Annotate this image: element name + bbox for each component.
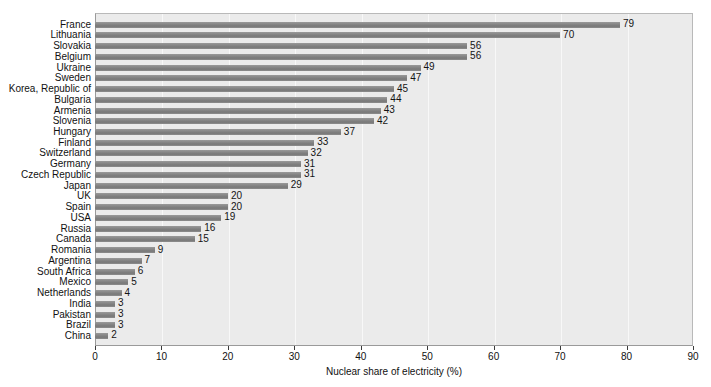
category-axis-labels: FranceLithuaniaSlovakiaBelgiumUkraineSwe… — [0, 13, 91, 346]
bar-row: 15 — [95, 234, 693, 245]
bar-value-label: 47 — [410, 72, 421, 83]
chart-screenshot: FranceLithuaniaSlovakiaBelgiumUkraineSwe… — [0, 0, 711, 387]
bar-value-label: 3 — [118, 297, 124, 308]
category-label: Hungary — [0, 126, 91, 137]
bar — [95, 290, 122, 296]
x-tick — [627, 346, 628, 350]
bar — [95, 150, 308, 156]
category-label: Sweden — [0, 72, 91, 83]
category-label: Lithuania — [0, 29, 91, 40]
bar-row: 19 — [95, 213, 693, 224]
bar-value-label: 29 — [291, 179, 302, 190]
bar-value-label: 31 — [304, 158, 315, 169]
bar-row: 43 — [95, 106, 693, 117]
x-tick-label: 20 — [222, 351, 233, 363]
category-label: Pakistan — [0, 309, 91, 320]
bar-value-label: 44 — [390, 93, 401, 104]
bar-value-label: 5 — [131, 276, 137, 287]
category-label: Belgium — [0, 51, 91, 62]
bar-row: 31 — [95, 170, 693, 181]
category-label: UK — [0, 190, 91, 201]
bar — [95, 86, 394, 92]
bar — [95, 204, 228, 210]
bar-row: 3 — [95, 310, 693, 321]
bar — [95, 193, 228, 199]
category-label: Japan — [0, 180, 91, 191]
category-label: Finland — [0, 137, 91, 148]
bar-value-label: 49 — [424, 61, 435, 72]
bar — [95, 247, 155, 253]
x-tick-label: 10 — [156, 351, 167, 363]
bar-value-label: 19 — [224, 211, 235, 222]
category-label: Slovenia — [0, 115, 91, 126]
bar-row: 56 — [95, 52, 693, 63]
bar-row: 4 — [95, 288, 693, 299]
bar — [95, 43, 467, 49]
category-label: Netherlands — [0, 287, 91, 298]
bar-value-label: 16 — [204, 222, 215, 233]
x-tick-label: 50 — [422, 351, 433, 363]
bar-value-label: 33 — [317, 136, 328, 147]
bar-value-label: 42 — [377, 115, 388, 126]
bar-row: 70 — [95, 30, 693, 41]
bar — [95, 118, 374, 124]
x-tick-label: 90 — [687, 351, 698, 363]
bar — [95, 32, 560, 38]
category-label: India — [0, 298, 91, 309]
bar — [95, 161, 301, 167]
category-label: Ukraine — [0, 62, 91, 73]
bar — [95, 236, 195, 242]
bar-value-label: 32 — [311, 147, 322, 158]
bar-row: 31 — [95, 159, 693, 170]
bar-row: 37 — [95, 127, 693, 138]
bar-row: 9 — [95, 245, 693, 256]
bar-value-label: 56 — [470, 40, 481, 51]
x-tick — [228, 346, 229, 350]
category-label: Spain — [0, 201, 91, 212]
category-label: Argentina — [0, 255, 91, 266]
bar-row: 16 — [95, 224, 693, 235]
bar-series: 7970565649474544434237333231312920201916… — [95, 13, 693, 346]
category-label: USA — [0, 212, 91, 223]
bar-value-label: 70 — [563, 29, 574, 40]
bar — [95, 183, 288, 189]
x-tick-label: 0 — [92, 351, 98, 363]
bar-value-label: 2 — [111, 329, 117, 340]
bar-row: 3 — [95, 320, 693, 331]
category-label: Czech Republic — [0, 169, 91, 180]
bar-value-label: 43 — [384, 104, 395, 115]
bar-value-label: 3 — [118, 319, 124, 330]
x-tick — [560, 346, 561, 350]
x-tick — [294, 346, 295, 350]
category-label: Slovakia — [0, 40, 91, 51]
x-tick-label: 60 — [488, 351, 499, 363]
bar-row: 42 — [95, 116, 693, 127]
bar — [95, 97, 387, 103]
bar-value-label: 4 — [125, 287, 131, 298]
bar — [95, 140, 314, 146]
bar-value-label: 56 — [470, 50, 481, 61]
category-label: South Africa — [0, 266, 91, 277]
x-tick-label: 40 — [355, 351, 366, 363]
bar-row: 7 — [95, 256, 693, 267]
bar-value-label: 9 — [158, 244, 164, 255]
bar — [95, 301, 115, 307]
bar-value-label: 37 — [344, 126, 355, 137]
bar-row: 20 — [95, 191, 693, 202]
bar-value-label: 6 — [138, 265, 144, 276]
bar-row: 79 — [95, 20, 693, 31]
x-tick-label: 30 — [289, 351, 300, 363]
bar — [95, 54, 467, 60]
category-label: Romania — [0, 244, 91, 255]
bar-row: 6 — [95, 267, 693, 278]
bar — [95, 75, 407, 81]
category-label: Brazil — [0, 319, 91, 330]
bar — [95, 322, 115, 328]
bar-value-label: 15 — [198, 233, 209, 244]
bar-value-label: 31 — [304, 168, 315, 179]
category-label: Korea, Republic of — [0, 83, 91, 94]
bar — [95, 269, 135, 275]
category-label: France — [0, 19, 91, 30]
category-label: Mexico — [0, 276, 91, 287]
bar — [95, 215, 221, 221]
